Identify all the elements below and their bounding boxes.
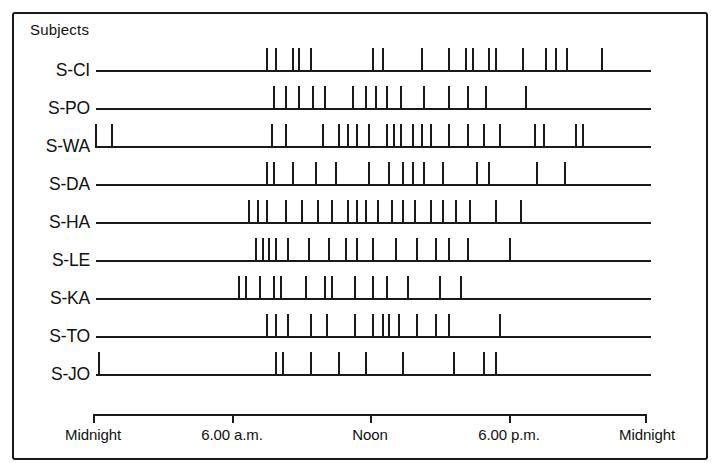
event-tick <box>98 352 100 376</box>
event-tick <box>375 86 377 110</box>
event-tick <box>442 200 444 224</box>
event-tick <box>347 124 349 148</box>
page-title: Subjects <box>30 21 89 38</box>
event-tick <box>324 86 326 110</box>
event-tick <box>423 86 425 110</box>
event-tick <box>310 48 312 72</box>
event-tick <box>268 238 270 262</box>
axis-tick-label: Noon <box>352 426 387 443</box>
event-tick <box>338 124 340 148</box>
row-label-s-wa: S-WA <box>46 136 90 157</box>
event-tick <box>275 314 277 338</box>
event-tick <box>354 314 356 338</box>
axis-tick <box>645 414 647 423</box>
event-tick <box>372 48 374 72</box>
event-tick <box>287 314 289 338</box>
event-tick <box>575 124 577 148</box>
event-tick <box>248 200 250 224</box>
event-tick <box>435 238 437 262</box>
row-baseline <box>96 222 651 224</box>
event-tick <box>301 200 303 224</box>
event-tick <box>582 124 584 148</box>
event-tick <box>317 200 319 224</box>
row-label-s-to: S-TO <box>49 326 90 347</box>
event-tick <box>400 86 402 110</box>
event-tick <box>495 352 497 376</box>
event-tick <box>439 276 441 300</box>
event-tick <box>257 200 259 224</box>
event-tick <box>266 314 268 338</box>
event-tick <box>430 200 432 224</box>
event-tick <box>488 162 490 186</box>
event-tick <box>564 162 566 186</box>
event-tick <box>407 276 409 300</box>
event-tick <box>326 314 328 338</box>
event-tick <box>372 276 374 300</box>
axis-tick <box>93 414 95 423</box>
event-tick <box>354 276 356 300</box>
event-tick <box>356 200 358 224</box>
row-label-s-ha: S-HA <box>49 212 90 233</box>
event-tick <box>245 276 247 300</box>
row-baseline <box>96 184 651 186</box>
event-tick <box>421 48 423 72</box>
event-tick <box>377 200 379 224</box>
event-tick <box>455 200 457 224</box>
event-tick <box>416 238 418 262</box>
event-tick <box>402 352 404 376</box>
event-tick <box>315 162 317 186</box>
event-tick <box>305 276 307 300</box>
axis-tick-label: Midnight <box>65 426 121 443</box>
event-tick <box>262 238 264 262</box>
event-tick <box>448 86 450 110</box>
event-tick <box>386 276 388 300</box>
event-tick <box>310 314 312 338</box>
event-tick <box>430 124 432 148</box>
event-tick <box>435 314 437 338</box>
event-tick <box>416 314 418 338</box>
event-tick <box>365 200 367 224</box>
event-tick <box>308 238 310 262</box>
event-tick <box>95 124 97 148</box>
event-tick <box>386 86 388 110</box>
event-tick <box>285 124 287 148</box>
event-tick <box>275 238 277 262</box>
axis-tick <box>509 414 511 423</box>
event-tick <box>273 162 275 186</box>
event-tick <box>465 48 467 72</box>
event-tick <box>448 124 450 148</box>
event-tick <box>414 200 416 224</box>
row-label-s-po: S-PO <box>48 98 90 119</box>
axis-tick-label: 6.00 a.m. <box>201 426 263 443</box>
event-tick <box>393 124 395 148</box>
event-tick <box>543 124 545 148</box>
event-tick <box>275 48 277 72</box>
row-baseline <box>96 374 651 376</box>
event-tick <box>292 48 294 72</box>
event-tick <box>412 124 414 148</box>
event-tick <box>347 200 349 224</box>
event-tick <box>356 238 358 262</box>
event-tick <box>467 124 469 148</box>
row-baseline <box>96 146 651 148</box>
axis-tick <box>370 414 372 423</box>
event-tick <box>365 86 367 110</box>
event-tick <box>398 314 400 338</box>
event-tick <box>499 124 501 148</box>
event-tick <box>324 276 326 300</box>
event-tick <box>448 48 450 72</box>
event-tick <box>520 200 522 224</box>
event-tick <box>483 124 485 148</box>
event-tick <box>273 86 275 110</box>
event-tick <box>423 162 425 186</box>
event-tick <box>273 276 275 300</box>
event-tick <box>395 238 397 262</box>
event-tick <box>282 352 284 376</box>
event-tick <box>266 48 268 72</box>
event-tick <box>275 352 277 376</box>
event-tick <box>402 162 404 186</box>
event-tick <box>312 86 314 110</box>
figure-border <box>12 12 708 460</box>
event-tick <box>111 124 113 148</box>
event-tick <box>448 314 450 338</box>
